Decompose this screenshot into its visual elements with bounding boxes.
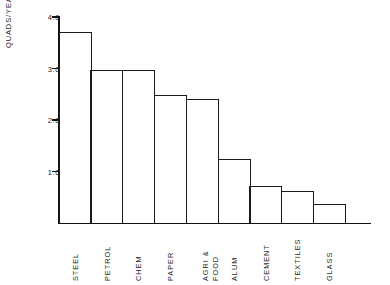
bar: [313, 204, 346, 223]
bar-chart: QUADS/YEAR 4.03.02.01.0 STEELPETROLCHEMP…: [0, 0, 390, 285]
x-axis-category-label: ALUM: [230, 257, 240, 281]
bar: [249, 186, 282, 223]
bar: [186, 99, 219, 223]
x-axis-category-label: CHEM: [134, 256, 144, 282]
x-axis-category-label: TEXTILES: [293, 239, 303, 281]
bar: [90, 70, 123, 223]
x-axis-category-label: AGRI & FOOD: [201, 250, 220, 281]
x-axis-category-label: GLASS: [325, 252, 335, 281]
x-axis-category-label: STEEL: [71, 253, 81, 281]
bar: [218, 159, 251, 223]
bar: [122, 70, 155, 223]
bar: [154, 95, 187, 223]
bar: [59, 32, 92, 223]
bar-series: [0, 0, 390, 285]
bar: [281, 191, 314, 223]
x-axis-category-label: PETROL: [103, 246, 113, 281]
x-axis-category-label: CEMENT: [262, 244, 272, 281]
x-axis-category-label: PAPER: [166, 252, 176, 281]
